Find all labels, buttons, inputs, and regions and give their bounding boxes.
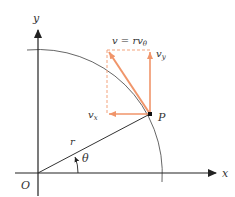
vx-label: vx (88, 109, 98, 122)
origin-label: O (21, 179, 30, 192)
vy-label: vy (156, 48, 167, 61)
x-axis-label: x (222, 167, 229, 180)
theta-label: θ (82, 152, 89, 165)
polar-velocity-diagram: y x O P r θ v = rvθ vy vx (0, 0, 235, 197)
y-axis-label: y (32, 12, 40, 25)
point-p-marker (148, 112, 152, 116)
theta-arc (75, 157, 78, 173)
velocity-label: v = rvθ (112, 35, 148, 48)
diagram-canvas: y x O P r θ v = rvθ vy vx (0, 0, 235, 197)
v-vector (109, 52, 150, 114)
radius-line (38, 114, 150, 173)
radius-label: r (70, 136, 76, 147)
point-p-label: P (157, 111, 166, 124)
